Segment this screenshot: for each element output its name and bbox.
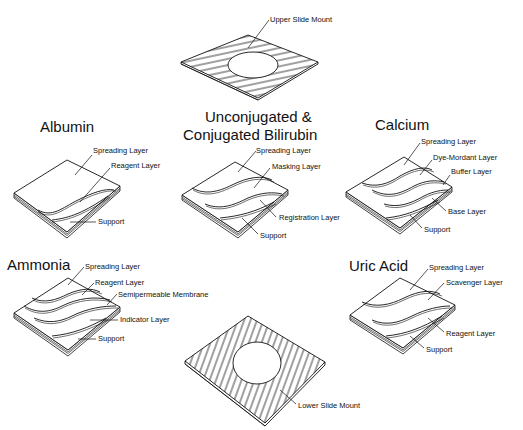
albumin-title: Albumin <box>40 118 94 135</box>
uric-acid-layer-support: Support <box>426 345 453 354</box>
upper-slide-mount: Upper Slide Mount <box>181 15 333 100</box>
ammonia-layer-spreading: Spreading Layer <box>85 262 141 271</box>
albumin-slide: Albumin Spreading Layer Reagent Layer Su… <box>14 118 161 238</box>
bilirubin-layer-spreading: Spreading Layer <box>256 146 312 155</box>
calcium-layer-support: Support <box>424 225 451 234</box>
uric-acid-slide: Uric Acid Spreading Layer Scavenger Laye… <box>349 257 503 354</box>
bilirubin-slide: Unconjugated & Conjugated Bilirubin Spre… <box>182 108 340 240</box>
multilayer-slide-diagram: Upper Slide Mount Albumin Spreading Laye… <box>0 0 523 430</box>
calcium-layer-dye-mordant: Dye-Mordant Layer <box>433 153 498 162</box>
lower-sample-aperture <box>233 342 281 384</box>
albumin-layer-support: Support <box>98 217 125 226</box>
calcium-title: Calcium <box>375 116 429 133</box>
ammonia-layer-support: Support <box>98 334 125 343</box>
calcium-layer-spreading: Spreading Layer <box>421 137 477 146</box>
bilirubin-title-line1: Unconjugated & <box>205 108 312 125</box>
ammonia-layer-semipermeable-membrane: Semipermeable Membrane <box>118 290 208 299</box>
ammonia-layer-indicator: Indicator Layer <box>120 315 170 324</box>
uric-acid-title: Uric Acid <box>349 257 408 274</box>
upper-slide-mount-label: Upper Slide Mount <box>270 15 333 24</box>
bilirubin-layer-support: Support <box>260 231 287 240</box>
calcium-slide: Calcium Spreading Layer Dye-Mordant Laye… <box>346 116 498 234</box>
ammonia-layer-reagent: Reagent Layer <box>95 278 145 287</box>
lower-slide-mount-label: Lower Slide Mount <box>298 401 361 410</box>
ammonia-title: Ammonia <box>7 256 71 273</box>
bilirubin-layer-registration: Registration Layer <box>279 213 340 222</box>
uric-acid-layer-scavenger: Scavenger Layer <box>446 278 503 287</box>
ammonia-slide: Ammonia Spreading Layer Reagent Layer Se… <box>7 256 208 356</box>
albumin-layer-spreading: Spreading Layer <box>93 146 149 155</box>
bilirubin-layer-masking: Masking Layer <box>272 162 321 171</box>
lower-slide-mount: Lower Slide Mount <box>185 316 361 426</box>
calcium-layer-base: Base Layer <box>448 207 486 216</box>
uric-acid-layer-reagent: Reagent Layer <box>446 329 496 338</box>
sample-aperture <box>228 52 278 78</box>
bilirubin-title-line2: Conjugated Bilirubin <box>183 126 317 143</box>
uric-acid-layer-spreading: Spreading Layer <box>429 263 485 272</box>
albumin-layer-reagent: Reagent Layer <box>111 161 161 170</box>
calcium-layer-buffer: Buffer Layer <box>451 167 492 176</box>
